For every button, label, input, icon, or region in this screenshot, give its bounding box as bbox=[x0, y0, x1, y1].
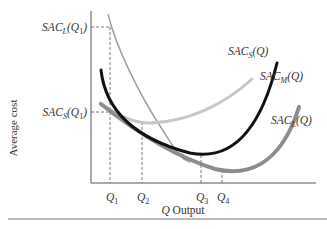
sac-l-label: SACL(Q) bbox=[271, 114, 312, 129]
sacl-q1-label: SACL(Q1) bbox=[42, 21, 87, 36]
y-axis-title: Average cost bbox=[7, 100, 19, 157]
sac-s-label: SACS(Q) bbox=[228, 45, 269, 60]
sacs-q1-label: SACS(Q1) bbox=[43, 106, 88, 121]
reference-lines bbox=[91, 27, 222, 183]
q1-label: Q1 bbox=[106, 191, 118, 206]
x-axis-title: Q Output bbox=[161, 204, 205, 217]
q2-label: Q2 bbox=[137, 191, 149, 206]
q4-label: Q4 bbox=[217, 191, 229, 206]
sac-m-label: SACM(Q) bbox=[260, 70, 303, 85]
sac-m-curve bbox=[101, 63, 277, 154]
average-cost-chart: SACL(Q1) SACS(Q1) Average cost SACS(Q) S… bbox=[0, 0, 327, 229]
sac-l-curve bbox=[101, 104, 299, 171]
